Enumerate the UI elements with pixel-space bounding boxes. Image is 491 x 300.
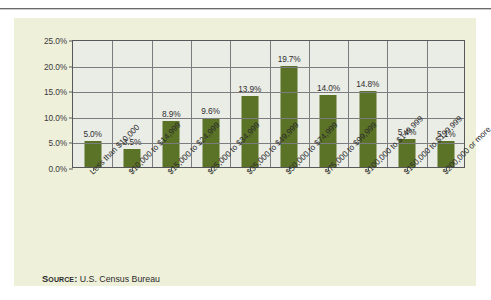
gridline-horizontal	[73, 118, 464, 119]
y-axis-tick-label: 20.0%	[44, 62, 67, 72]
x-axis-category-labels: Less than $10,000$10,000 to $14,999$15,0…	[72, 170, 465, 265]
figure-panel: 5.0%3.5%8.9%9.6%13.9%19.7%14.0%14.8%5.4%…	[14, 18, 476, 286]
y-axis-tick-mark	[69, 41, 73, 42]
top-divider-rule	[0, 8, 491, 9]
bar-chart: 5.0%3.5%8.9%9.6%13.9%19.7%14.0%14.8%5.4%…	[14, 18, 476, 286]
bar-cell: 5.0%	[73, 41, 112, 167]
bar-value-label: 19.7%	[278, 54, 301, 64]
y-axis-tick-label: 10.0%	[44, 113, 67, 123]
y-axis-tick-label: 0.0%	[48, 164, 67, 174]
y-axis-tick-mark	[69, 117, 73, 118]
gridline-horizontal	[73, 67, 464, 68]
y-axis-tick-mark	[69, 92, 73, 93]
bar-value-label: 14.8%	[356, 79, 379, 89]
y-axis-tick-label: 15.0%	[44, 87, 67, 97]
y-axis-tick-label: 5.0%	[48, 138, 67, 148]
gridline-horizontal	[73, 143, 464, 144]
bar-value-label: 5.0%	[83, 129, 102, 139]
source-label: Source:	[42, 273, 77, 284]
y-axis-tick-mark	[69, 66, 73, 67]
y-axis-tick-mark	[69, 143, 73, 144]
bar-value-label: 9.6%	[201, 106, 220, 116]
source-value: U.S. Census Bureau	[80, 274, 160, 284]
y-axis-tick-label: 25.0%	[44, 36, 67, 46]
bar[interactable]	[281, 66, 298, 167]
source-note: Source: U.S. Census Bureau	[42, 273, 160, 284]
gridline-horizontal	[73, 92, 464, 93]
